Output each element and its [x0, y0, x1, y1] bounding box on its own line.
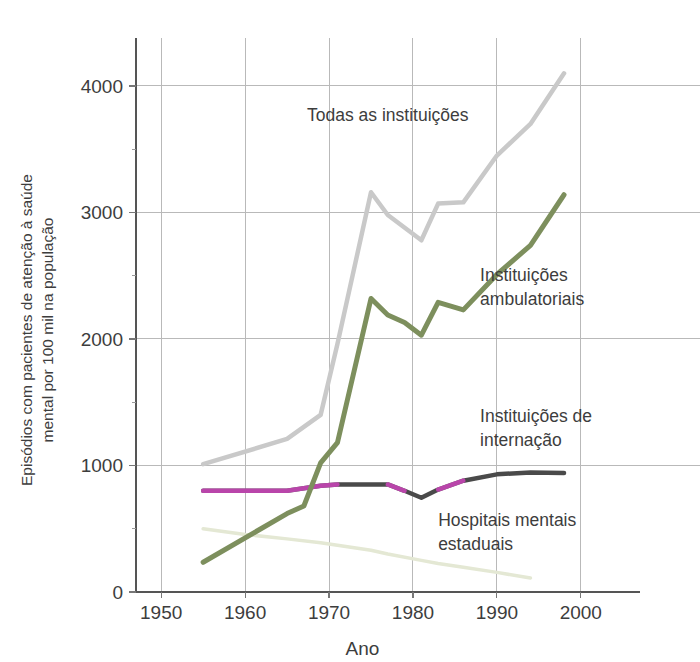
series-line-highlight — [388, 484, 405, 490]
x-tick-labels-group: 195019601970198019902000 — [140, 602, 602, 623]
x-tick-label: 1960 — [224, 602, 266, 623]
x-axis-title-text: Ano — [346, 638, 380, 659]
data-series-group — [203, 73, 564, 578]
y-tick-labels-group: 01000200030004000 — [81, 76, 123, 603]
y-axis-title-line: Episódios com pacientes de atenção à saú… — [18, 174, 35, 486]
x-axis-title: Ano — [346, 638, 380, 659]
y-tick-label: 2000 — [81, 329, 123, 350]
series-annotation-label: Hospitais mentais — [438, 510, 576, 530]
y-axis-title: Episódios com pacientes de atenção à saú… — [18, 174, 56, 486]
series-line-highlight — [203, 484, 337, 490]
series-annotation-label: Instituições de — [480, 406, 592, 426]
y-tick-label: 0 — [112, 582, 123, 603]
y-tick-label: 3000 — [81, 202, 123, 223]
x-tick-label: 1970 — [308, 602, 350, 623]
x-tick-label: 2000 — [560, 602, 602, 623]
y-tick-label: 1000 — [81, 455, 123, 476]
x-tick-label: 1990 — [476, 602, 518, 623]
series-annotation-label: Todas as instituições — [307, 105, 469, 125]
series-annotation-label: estaduais — [438, 534, 513, 554]
line-chart-svg: 195019601970198019902000 010002000300040… — [0, 0, 700, 662]
series-annotation-label: ambulatoriais — [480, 289, 584, 309]
series-line — [203, 472, 564, 497]
series-annotation-label: internação — [480, 430, 562, 450]
y-axis-title-line: mental por 100 mil na população — [39, 218, 56, 443]
series-annotation-label: Instituições — [480, 265, 568, 285]
series-line-highlight — [438, 481, 463, 490]
x-tick-label: 1980 — [392, 602, 434, 623]
x-tick-label: 1950 — [140, 602, 182, 623]
chart-figure: 195019601970198019902000 010002000300040… — [0, 0, 700, 662]
y-tick-label: 4000 — [81, 76, 123, 97]
series-line — [203, 195, 564, 563]
